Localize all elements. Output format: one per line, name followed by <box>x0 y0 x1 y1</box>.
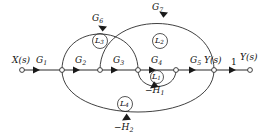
arrow-g5 <box>189 67 196 74</box>
node-4 <box>174 68 179 73</box>
arrow-g2 <box>73 67 80 74</box>
loop-label-l3: L3 <box>95 37 104 46</box>
gain-label-g3: G3 <box>113 56 124 66</box>
loop-label-l4: L4 <box>120 100 129 109</box>
edge-h2-curve <box>62 70 214 112</box>
feedback-label-h2: −H2 <box>114 123 133 133</box>
arrow-unity <box>229 67 236 74</box>
arrow-h2 <box>122 113 131 120</box>
arrow-g6 <box>98 25 107 31</box>
gain-label-g6: G6 <box>92 14 103 24</box>
unity-gain-label: 1 <box>231 58 237 67</box>
gain-label-g5: G5 <box>190 56 201 66</box>
node-3 <box>136 68 141 73</box>
feedback-label-h1: −H1 <box>145 86 164 96</box>
signal-flow-graph-canvas <box>0 0 268 140</box>
source-node <box>20 68 25 73</box>
arrow-g1 <box>33 67 40 74</box>
final-output-node <box>248 68 253 73</box>
arrow-g3 <box>111 67 118 74</box>
gain-label-g7: G7 <box>152 3 163 13</box>
node-1 <box>60 68 65 73</box>
loop-label-l2: L2 <box>155 37 164 46</box>
node-2 <box>98 68 103 73</box>
gain-label-g4: G4 <box>151 56 162 66</box>
loop-label-l1: L1 <box>152 73 161 82</box>
arc-h2 <box>62 70 214 121</box>
gain-label-g2: G2 <box>75 56 86 66</box>
output-label-intermediate: Y(s) <box>204 56 222 65</box>
signal-flow-graph-figure: X(s) Y(s) 1 Y(s) G1 G2 G3 G4 G5 G6 G7 −H… <box>0 0 268 140</box>
output-label-final: Y(s) <box>240 53 258 62</box>
output-node <box>212 68 217 73</box>
gain-label-g1: G1 <box>36 56 47 66</box>
source-label: X(s) <box>12 56 30 65</box>
